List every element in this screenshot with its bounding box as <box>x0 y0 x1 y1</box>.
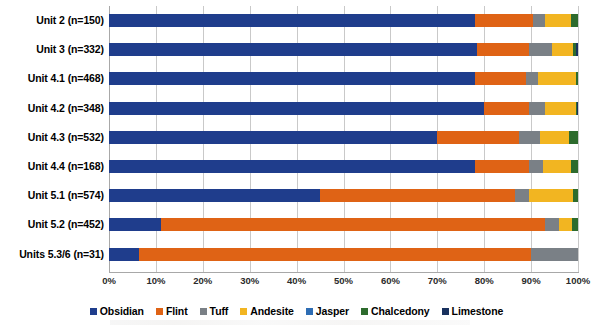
bar-track <box>109 102 578 115</box>
y-axis-label: Unit 2 (n=150) <box>0 14 104 27</box>
bar-segment-obsidian[interactable] <box>109 160 475 173</box>
bar-segment-tuff[interactable] <box>529 160 543 173</box>
bar-track <box>109 160 578 173</box>
bar-segment-tuff[interactable] <box>531 248 578 261</box>
y-axis-label: Units 5.3/6 (n=31) <box>0 248 104 261</box>
legend-swatch-icon <box>156 308 163 315</box>
bar-segment-tuff[interactable] <box>529 43 552 56</box>
legend-swatch-icon <box>200 308 207 315</box>
x-axis-baseline <box>109 272 579 273</box>
bar-row[interactable] <box>109 131 578 144</box>
bar-segment-andesite[interactable] <box>552 43 573 56</box>
bar-segment-tuff[interactable] <box>529 102 545 115</box>
bar-segment-chalcedony[interactable] <box>571 14 578 27</box>
bar-segment-andesite[interactable] <box>543 160 571 173</box>
bar-row[interactable] <box>109 160 578 173</box>
bar-track <box>109 189 578 202</box>
y-axis-label: Unit 5.1 (n=574) <box>0 189 104 202</box>
bar-segment-flint[interactable] <box>320 189 515 202</box>
bar-segment-andesite[interactable] <box>545 102 575 115</box>
bar-segment-chalcedony[interactable] <box>576 72 578 85</box>
x-tick-label: 40% <box>287 275 306 286</box>
legend-swatch-icon <box>240 308 247 315</box>
legend-item-chalcedony[interactable]: Chalcedony <box>361 305 430 317</box>
legend-swatch-icon <box>442 308 449 315</box>
bar-segment-tuff[interactable] <box>526 72 538 85</box>
bar-segment-tuff[interactable] <box>545 218 559 231</box>
bar-row[interactable] <box>109 189 578 202</box>
scan-artifact <box>110 320 470 325</box>
legend-label: Tuff <box>210 305 229 317</box>
x-tick-label: 70% <box>428 275 447 286</box>
bar-segment-obsidian[interactable] <box>109 14 475 27</box>
bar-segment-andesite[interactable] <box>559 218 572 231</box>
y-axis-label: Unit 5.2 (n=452) <box>0 218 104 231</box>
legend-swatch-icon <box>306 308 313 315</box>
bar-segment-chalcedony[interactable] <box>572 218 578 231</box>
bar-segment-obsidian[interactable] <box>109 189 320 202</box>
bar-segment-andesite[interactable] <box>538 72 576 85</box>
bar-segment-andesite[interactable] <box>545 14 571 27</box>
bar-row[interactable] <box>109 14 578 27</box>
bar-segment-chalcedony[interactable] <box>569 131 578 144</box>
y-axis-label: Unit 4.3 (n=532) <box>0 131 104 144</box>
bar-segment-flint[interactable] <box>475 72 527 85</box>
bar-segment-chalcedony[interactable] <box>573 189 578 202</box>
y-axis-label: Unit 4.4 (n=168) <box>0 160 104 173</box>
bar-segment-tuff[interactable] <box>519 131 540 144</box>
bar-segment-obsidian[interactable] <box>109 72 475 85</box>
bar-segment-flint[interactable] <box>475 14 534 27</box>
bar-segment-tuff[interactable] <box>515 189 529 202</box>
bar-track <box>109 248 578 261</box>
legend-swatch-icon <box>90 308 97 315</box>
bar-segment-obsidian[interactable] <box>109 43 477 56</box>
bar-track <box>109 131 578 144</box>
legend-label: Chalcedony <box>371 305 430 317</box>
bar-row[interactable] <box>109 218 578 231</box>
bar-segment-flint[interactable] <box>484 102 529 115</box>
bar-segment-flint[interactable] <box>139 248 531 261</box>
bar-segment-flint[interactable] <box>475 160 529 173</box>
bar-row[interactable] <box>109 43 578 56</box>
legend-label: Obsidian <box>100 305 144 317</box>
legend-item-tuff[interactable]: Tuff <box>200 305 229 317</box>
x-tick-label: 20% <box>193 275 212 286</box>
bar-segment-flint[interactable] <box>437 131 519 144</box>
bar-rows <box>109 6 578 272</box>
bar-row[interactable] <box>109 248 578 261</box>
legend-label: Andesite <box>250 305 294 317</box>
legend-item-obsidian[interactable]: Obsidian <box>90 305 144 317</box>
bar-segment-obsidian[interactable] <box>109 131 437 144</box>
x-axis-tick-labels: 0%10%20%30%40%50%60%70%80%90%100% <box>109 275 579 289</box>
bar-segment-limestone[interactable] <box>576 43 578 56</box>
legend-swatch-icon <box>361 308 368 315</box>
legend-item-jasper[interactable]: Jasper <box>306 305 349 317</box>
bar-segment-flint[interactable] <box>477 43 529 56</box>
legend-label: Flint <box>166 305 188 317</box>
legend-label: Limestone <box>452 305 504 317</box>
legend-item-andesite[interactable]: Andesite <box>240 305 294 317</box>
bar-segment-flint[interactable] <box>161 218 546 231</box>
bar-row[interactable] <box>109 102 578 115</box>
legend-item-flint[interactable]: Flint <box>156 305 188 317</box>
bar-track <box>109 14 578 27</box>
x-tick-label: 100% <box>566 275 590 286</box>
bar-segment-limestone[interactable] <box>577 102 578 115</box>
bar-segment-tuff[interactable] <box>533 14 545 27</box>
legend-item-limestone[interactable]: Limestone <box>442 305 504 317</box>
y-axis-label: Unit 3 (n=332) <box>0 43 104 56</box>
y-axis-category-labels: Unit 2 (n=150)Unit 3 (n=332)Unit 4.1 (n=… <box>0 6 104 272</box>
bar-segment-andesite[interactable] <box>529 189 574 202</box>
bar-segment-obsidian[interactable] <box>109 218 161 231</box>
x-tick-label: 60% <box>381 275 400 286</box>
bar-segment-andesite[interactable] <box>540 131 568 144</box>
x-tick-label: 90% <box>522 275 541 286</box>
bar-row[interactable] <box>109 72 578 85</box>
bar-track <box>109 43 578 56</box>
bar-segment-obsidian[interactable] <box>109 102 484 115</box>
bar-track <box>109 218 578 231</box>
bar-segment-obsidian[interactable] <box>109 248 139 261</box>
y-axis-label: Unit 4.2 (n=348) <box>0 102 104 115</box>
x-tick-label: 50% <box>334 275 353 286</box>
bar-segment-chalcedony[interactable] <box>571 160 578 173</box>
